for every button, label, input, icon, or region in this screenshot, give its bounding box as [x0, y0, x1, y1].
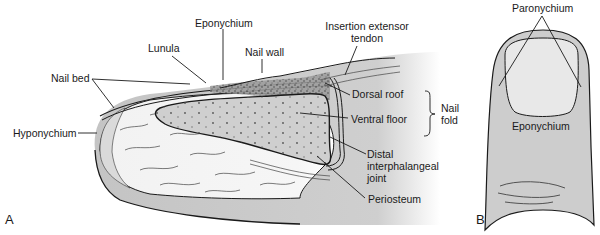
label-nail-fold-line1: Nail — [441, 102, 459, 114]
panel-b-drawing — [0, 0, 600, 235]
label-dip-joint: Distal interphalangeal joint — [367, 148, 439, 184]
label-insertion-line1: Insertion extensor — [312, 20, 422, 32]
label-insertion-line2: tendon — [312, 32, 422, 44]
label-paronychium: Paronychium — [512, 2, 573, 14]
label-nail-fold-line2: fold — [441, 114, 459, 126]
label-ventral-floor: Ventral floor — [351, 113, 407, 125]
label-dip-line2: interphalangeal — [367, 160, 439, 172]
label-hyponychium: Hyponychium — [13, 127, 77, 139]
label-dorsal-roof: Dorsal roof — [352, 88, 403, 100]
nail-anatomy-figure: Eponychium Lunula Nail wall Insertion ex… — [0, 0, 600, 235]
label-nail-fold: Nail fold — [441, 102, 459, 126]
panel-letter-b: B — [476, 212, 485, 227]
label-dip-line1: Distal — [367, 148, 439, 160]
label-nail-wall: Nail wall — [245, 46, 284, 58]
panel-letter-a: A — [5, 212, 14, 227]
label-nail-bed: Nail bed — [51, 72, 90, 84]
label-dip-line3: joint — [367, 172, 439, 184]
label-eponychium-a: Eponychium — [195, 17, 253, 29]
label-eponychium-b: Eponychium — [512, 120, 570, 132]
label-insertion-extensor-tendon: Insertion extensor tendon — [312, 20, 422, 44]
label-periosteum: Periosteum — [368, 193, 421, 205]
label-lunula: Lunula — [148, 42, 180, 54]
